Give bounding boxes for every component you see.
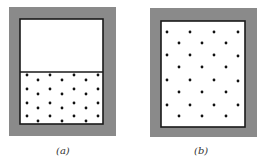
particle-dot — [97, 115, 100, 118]
particle-dot — [26, 74, 29, 77]
particle-dot — [201, 66, 204, 69]
panel-a-container — [9, 7, 116, 136]
particle-dot — [189, 79, 192, 82]
particle-dot — [85, 107, 88, 110]
particle-dot — [201, 42, 204, 45]
panel-b-label: (b) — [194, 145, 208, 156]
particle-dot — [178, 42, 181, 45]
panel-a-label: (a) — [56, 145, 70, 156]
particle-dot — [61, 93, 64, 96]
particle-dot — [73, 88, 76, 91]
particle-dot — [178, 66, 181, 69]
particle-dot — [49, 74, 52, 77]
particle-dot — [37, 107, 40, 110]
particle-dot — [26, 102, 29, 105]
particle-dot — [61, 79, 64, 82]
particle-dot — [26, 88, 29, 91]
particle-dot — [225, 115, 228, 118]
particle-dot — [237, 104, 240, 107]
particle-dot — [166, 54, 169, 57]
particle-dot — [85, 93, 88, 96]
particle-dot — [166, 31, 169, 34]
particle-dot — [73, 115, 76, 118]
container-interior — [161, 21, 245, 127]
diagram-canvas — [0, 0, 265, 168]
particle-dot — [237, 31, 240, 34]
particle-dot — [213, 79, 216, 82]
particle-dot — [49, 102, 52, 105]
particle-dot — [189, 104, 192, 107]
particle-dot — [201, 91, 204, 94]
particle-dot — [189, 31, 192, 34]
particle-dot — [97, 74, 100, 77]
particle-dot — [37, 120, 40, 123]
particle-dot — [73, 102, 76, 105]
particle-dot — [166, 79, 169, 82]
particle-dot — [213, 104, 216, 107]
particle-dot — [97, 88, 100, 91]
particle-dot — [166, 104, 169, 107]
particle-dot — [37, 79, 40, 82]
particle-dot — [178, 115, 181, 118]
particle-dot — [225, 66, 228, 69]
particle-dot — [73, 74, 76, 77]
particle-dot — [225, 42, 228, 45]
particle-dot — [97, 102, 100, 105]
particle-dot — [237, 55, 240, 58]
particle-dot — [61, 107, 64, 110]
particle-dot — [213, 54, 216, 57]
particle-dot — [26, 115, 29, 118]
particle-dot — [178, 91, 181, 94]
particle-dot — [85, 79, 88, 82]
particle-dot — [237, 80, 240, 83]
panel-b-container — [150, 8, 257, 137]
particle-dot — [49, 115, 52, 118]
particle-dot — [189, 54, 192, 57]
particle-dot — [49, 88, 52, 91]
particle-dot — [85, 120, 88, 123]
particle-dot — [61, 120, 64, 123]
particle-dot — [37, 93, 40, 96]
particle-dot — [225, 91, 228, 94]
particle-dot — [201, 115, 204, 118]
particle-dot — [213, 31, 216, 34]
